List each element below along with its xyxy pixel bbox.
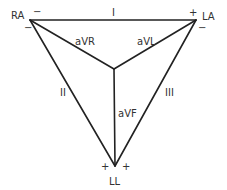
lead-label-ii: II <box>60 87 66 98</box>
polarity-ll-left: + <box>101 161 109 172</box>
polarity-ra-bottom: − <box>24 22 32 33</box>
vertex-label-ra: RA <box>11 10 25 21</box>
lead-label-avr: aVR <box>75 36 95 47</box>
einthoven-triangle-diagram: RA LA LL I aVR aVL II III aVF − − + − + … <box>0 0 227 190</box>
lead-label-avf: aVF <box>118 108 137 119</box>
lead-label-iii: III <box>165 87 174 98</box>
polarity-la-top: + <box>189 7 197 18</box>
lead-label-i: I <box>112 7 115 18</box>
avr-line <box>30 20 114 69</box>
vertex-label-ll: LL <box>109 176 121 187</box>
polarity-ra-top: − <box>33 6 41 17</box>
polarity-ll-right: + <box>122 161 130 172</box>
avf-line <box>114 69 115 166</box>
lead-ii-line <box>30 20 115 166</box>
lead-label-avl: aVL <box>137 36 156 47</box>
vertex-label-la: LA <box>202 11 215 22</box>
polarity-la-bottom: − <box>198 22 206 33</box>
